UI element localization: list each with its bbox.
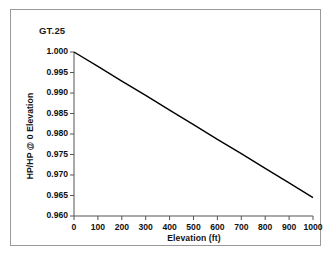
x-axis-ticks: [74, 216, 313, 220]
y-axis-ticks: [70, 52, 74, 216]
x-tick-label: 1000: [293, 222, 333, 232]
y-tick-label: 0.970: [32, 169, 68, 179]
y-tick-label: 0.985: [32, 108, 68, 118]
y-tick-label: 0.975: [32, 149, 68, 159]
axes: [74, 52, 313, 216]
data-series-line: [74, 52, 313, 198]
chart-figure: GT.25 HP/HP @ 0 Elevation Elevation (ft)…: [0, 0, 336, 264]
y-tick-label: 0.990: [32, 87, 68, 97]
y-tick-label: 1.000: [32, 46, 68, 56]
y-tick-label: 0.980: [32, 128, 68, 138]
y-tick-label: 0.960: [32, 210, 68, 220]
y-tick-label: 0.995: [32, 67, 68, 77]
y-tick-label: 0.965: [32, 190, 68, 200]
